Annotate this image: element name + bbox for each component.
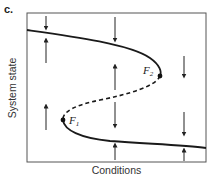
fold-bifurcation-diagram: c. F2 F1 <box>0 0 213 181</box>
f1-label: F1 <box>68 114 79 128</box>
f2-label: F2 <box>142 64 154 78</box>
x-axis-label: Conditions <box>0 164 213 176</box>
lower-stable-branch <box>63 120 206 148</box>
upper-stable-branch <box>27 30 161 76</box>
unstable-branch <box>63 76 160 120</box>
y-axis-label: System state <box>6 48 18 128</box>
f2-point <box>158 74 163 79</box>
f1-point <box>61 118 66 123</box>
diagram-canvas: F2 F1 <box>0 0 213 181</box>
plot-frame <box>27 13 206 162</box>
